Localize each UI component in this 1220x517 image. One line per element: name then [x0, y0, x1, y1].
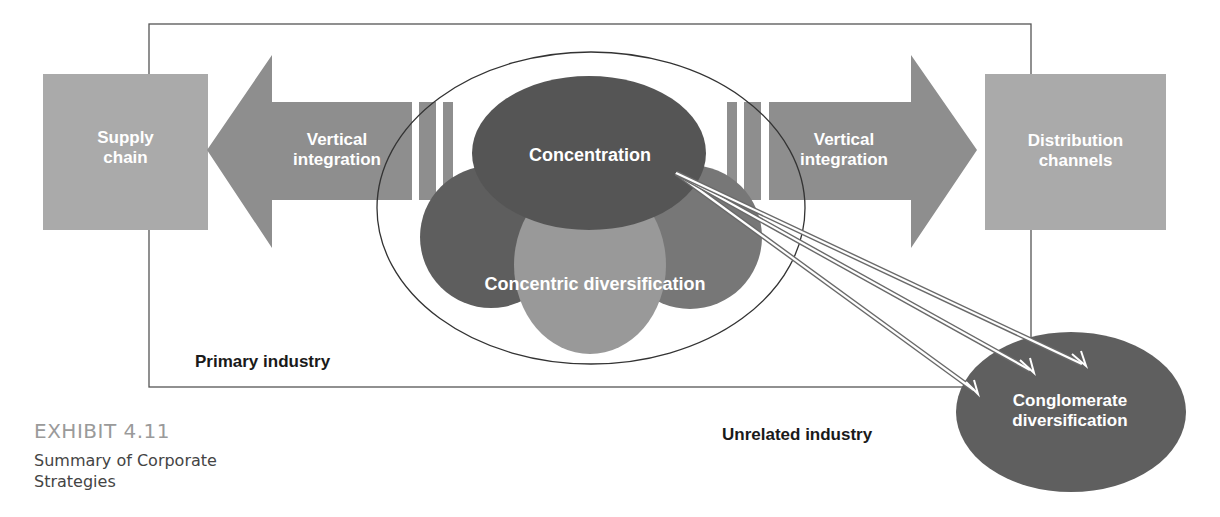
- vertical-integration-left-label: Vertical integration: [262, 130, 412, 171]
- vertical-integration-right-line-1: Vertical: [769, 130, 919, 150]
- distribution-channels-line-2: channels: [985, 151, 1166, 171]
- exhibit-number: EXHIBIT 4.11: [34, 419, 170, 443]
- conglomerate-line-1: Conglomerate: [980, 391, 1160, 411]
- supply-chain-line-2: chain: [43, 148, 208, 168]
- left-arrow-bar-1: [419, 102, 436, 200]
- concentric-diversification-label: Concentric diversification: [440, 274, 750, 296]
- supply-chain-line-1: Supply: [43, 128, 208, 148]
- primary-industry-label: Primary industry: [195, 352, 330, 372]
- vertical-integration-right-label: Vertical integration: [769, 130, 919, 171]
- supply-chain-label: Supply chain: [43, 128, 208, 169]
- distribution-channels-label: Distribution channels: [985, 131, 1166, 172]
- exhibit-title: Summary of Corporate Strategies: [34, 451, 284, 493]
- conglomerate-diversification-label: Conglomerate diversification: [980, 391, 1160, 432]
- vertical-integration-left-line-2: integration: [262, 150, 412, 170]
- unrelated-industry-label: Unrelated industry: [722, 425, 872, 445]
- right-arrow-bar-2: [744, 102, 761, 200]
- concentration-label: Concentration: [480, 145, 700, 167]
- vertical-integration-left-line-1: Vertical: [262, 130, 412, 150]
- conglomerate-line-2: diversification: [980, 411, 1160, 431]
- distribution-channels-line-1: Distribution: [985, 131, 1166, 151]
- diagram-canvas: [0, 0, 1220, 517]
- vertical-integration-right-line-2: integration: [769, 150, 919, 170]
